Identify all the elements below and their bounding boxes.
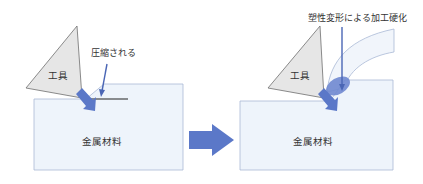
- right-arrow-icon: [189, 124, 234, 156]
- left-panel: 工具 圧縮される 金属材料: [26, 26, 183, 170]
- metal-material-label-left: 金属材料: [82, 136, 122, 147]
- tool-left: [26, 26, 82, 98]
- metal-material-label-right: 金属材料: [293, 136, 333, 147]
- tool-label-left: 工具: [48, 70, 68, 81]
- compressed-label: 圧縮される: [91, 47, 136, 58]
- metal-block-left: [34, 84, 183, 170]
- tool-right: [268, 26, 324, 98]
- right-panel: 工具 塑性変形による加工硬化 金属材料: [240, 12, 407, 170]
- work-hardening-label: 塑性変形による加工硬化: [308, 12, 407, 23]
- tool-label-right: 工具: [290, 70, 310, 81]
- machining-diagram: 工具 圧縮される 金属材料 工具 塑性変形による加工硬化: [0, 0, 423, 184]
